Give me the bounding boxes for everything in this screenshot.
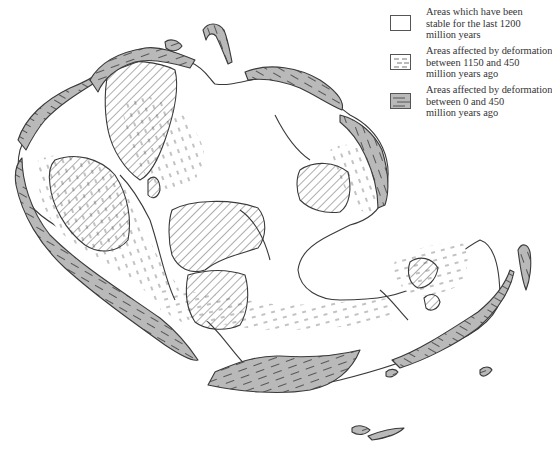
legend-item-deformed-old: Areas affected by deformation between 11… bbox=[388, 45, 552, 84]
legend-swatch-stable bbox=[390, 15, 411, 31]
young-belt-island-sw bbox=[386, 369, 398, 377]
legend-text-deformed-old: Areas affected by deformation between 11… bbox=[426, 45, 552, 80]
young-belt-island-south-1 bbox=[352, 426, 370, 435]
legend-line: stable for the last 1200 bbox=[426, 18, 523, 30]
craton-south-center bbox=[186, 270, 247, 329]
legend-item-deformed-young: Areas affected by deformation between 0 … bbox=[388, 84, 552, 123]
young-belt-island-south-2 bbox=[368, 428, 404, 440]
legend-text-stable: Areas which have been stable for the las… bbox=[426, 6, 523, 41]
young-belt-south bbox=[208, 350, 360, 392]
legend-line: Areas which have been bbox=[426, 6, 523, 18]
legend-swatch-deformed-old bbox=[390, 54, 411, 70]
legend-line: Areas affected by deformation bbox=[426, 84, 552, 96]
legend-text-deformed-young: Areas affected by deformation between 0 … bbox=[426, 84, 552, 119]
legend-line: between 1150 and 450 bbox=[426, 57, 552, 69]
young-belt-far-east-sliver bbox=[518, 245, 531, 290]
legend-line: million years ago bbox=[426, 107, 552, 119]
legend-line: million years ago bbox=[426, 68, 552, 80]
legend-line: million years bbox=[426, 29, 523, 41]
legend-swatch-deformed-young bbox=[390, 93, 411, 109]
young-belt-north-hook bbox=[203, 24, 232, 64]
young-belt-island-east bbox=[480, 367, 492, 376]
young-belt-north-cap bbox=[165, 40, 182, 51]
legend-item-stable: Areas which have been stable for the las… bbox=[388, 6, 552, 45]
legend: Areas which have been stable for the las… bbox=[388, 6, 552, 123]
legend-line: Areas affected by deformation bbox=[426, 45, 552, 57]
craton-small-east bbox=[424, 295, 440, 310]
craton-small-west bbox=[148, 177, 160, 197]
legend-line: between 0 and 450 bbox=[426, 96, 552, 108]
